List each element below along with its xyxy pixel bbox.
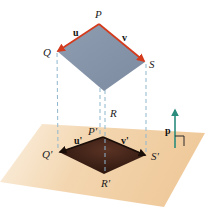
label-s: S bbox=[149, 58, 155, 70]
label-p: P bbox=[94, 8, 102, 20]
label-p-prime: P' bbox=[87, 125, 98, 137]
label-s-prime: S' bbox=[151, 150, 160, 162]
diagram-canvas: P Q S R u v P' Q' S' R' u' v' p bbox=[0, 0, 211, 207]
label-vector-u: u bbox=[73, 27, 79, 38]
label-r-prime: R' bbox=[100, 177, 111, 189]
label-vector-v-prime: v' bbox=[121, 135, 129, 146]
label-q-prime: Q' bbox=[42, 148, 53, 160]
projection-diagram: P Q S R u v P' Q' S' R' u' v' p bbox=[0, 0, 211, 207]
label-normal-p: p bbox=[165, 125, 171, 136]
label-vector-u-prime: u' bbox=[74, 135, 83, 146]
label-r: R bbox=[109, 107, 117, 119]
label-vector-v: v bbox=[122, 32, 127, 43]
label-q: Q bbox=[43, 46, 51, 58]
original-parallelogram bbox=[57, 24, 145, 91]
